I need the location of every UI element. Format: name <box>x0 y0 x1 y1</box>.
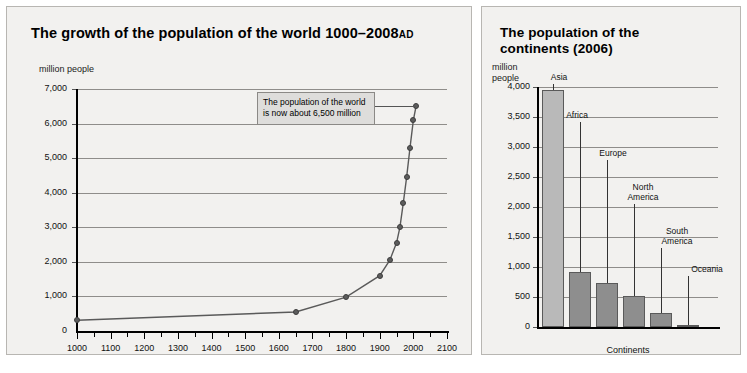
y-tick-label: 4,000 <box>19 187 67 197</box>
y-tick-label: 1,000 <box>488 261 530 271</box>
x-tick-mark <box>312 333 313 339</box>
x-tick-mark-minor <box>195 333 196 337</box>
bar-leader-line <box>634 204 635 296</box>
annotation-callout: The population of the world is now about… <box>257 92 375 125</box>
y-axis-line <box>537 87 539 327</box>
y-tick-label: 2,000 <box>19 256 67 266</box>
bar <box>623 296 645 327</box>
data-point <box>387 257 393 263</box>
data-point <box>410 117 416 123</box>
right-x-axis-title: Continents <box>528 345 728 355</box>
y-tick-label: 3,000 <box>19 221 67 231</box>
bar <box>596 283 618 327</box>
y-tick-label: 2,500 <box>488 171 530 181</box>
data-point <box>293 309 299 315</box>
x-tick-mark-minor <box>127 333 128 337</box>
x-tick-mark <box>178 333 179 339</box>
x-tick-mark <box>77 333 78 339</box>
y-tick-label: 1,000 <box>19 290 67 300</box>
data-point <box>400 200 406 206</box>
y-tick-label: 3,500 <box>488 111 530 121</box>
x-tick-mark-minor <box>94 333 95 337</box>
bar <box>569 272 591 327</box>
data-point <box>343 294 349 300</box>
left-chart-title: The growth of the population of the worl… <box>31 25 451 43</box>
x-tick-mark <box>346 333 347 339</box>
annotation-leader-line <box>375 106 416 107</box>
y-tick-label: 1,500 <box>488 231 530 241</box>
x-tick-mark-minor <box>296 333 297 337</box>
x-tick-mark <box>111 333 112 339</box>
continents-population-chart-panel: The population of the continents (2006) … <box>481 6 741 355</box>
y-tick-label: 500 <box>488 291 530 301</box>
data-point <box>404 174 410 180</box>
y-tick-label: 6,000 <box>19 118 67 128</box>
bar-label: North America <box>620 183 666 203</box>
x-tick-mark-minor <box>228 333 229 337</box>
bar-leader-line <box>607 160 608 283</box>
gridline <box>538 147 718 148</box>
y-tick-label: 2,000 <box>488 201 530 211</box>
y-tick-label: 4,000 <box>488 81 530 91</box>
y-tick-label: 7,000 <box>19 83 67 93</box>
left-y-axis-unit-label: million people <box>39 64 94 75</box>
gridline <box>538 87 718 88</box>
x-tick-mark-minor <box>430 333 431 337</box>
bar-leader-line <box>580 122 581 272</box>
bar-label: Europe <box>590 149 636 159</box>
x-tick-mark <box>279 333 280 339</box>
bar-label: South America <box>654 227 700 247</box>
x-tick-mark <box>413 333 414 339</box>
x-tick-mark-minor <box>397 333 398 337</box>
left-chart-title-text: The growth of the population of the worl… <box>31 25 399 41</box>
x-tick-label: 2100 <box>427 343 467 353</box>
x-tick-mark-minor <box>262 333 263 337</box>
left-chart-title-era: AD <box>399 29 414 40</box>
x-tick-mark <box>380 333 381 339</box>
gridline <box>538 207 718 208</box>
x-tick-mark-minor <box>329 333 330 337</box>
data-point <box>377 273 383 279</box>
bar-label: Asia <box>536 73 582 83</box>
x-tick-mark-minor <box>363 333 364 337</box>
left-plot-area: 01,0002,0003,0004,0005,0006,0007,0001000… <box>77 89 447 331</box>
x-tick-mark <box>212 333 213 339</box>
y-tick-label: 5,000 <box>19 152 67 162</box>
x-tick-mark <box>447 333 448 339</box>
population-line-series <box>77 89 447 331</box>
bar-leader-line <box>661 248 662 313</box>
x-tick-mark <box>144 333 145 339</box>
data-point <box>397 224 403 230</box>
y-tick-label: 0 <box>488 321 530 331</box>
bar <box>542 90 564 327</box>
y-tick-label: 3,000 <box>488 141 530 151</box>
bar-leader-line <box>553 84 554 90</box>
screenshot-stage: The growth of the population of the worl… <box>0 0 747 373</box>
bar <box>650 313 672 327</box>
data-point <box>394 240 400 246</box>
right-chart-title: The population of the continents (2006) <box>500 25 725 58</box>
world-population-chart-panel: The growth of the population of the worl… <box>6 6 472 355</box>
bar-label: Oceania <box>684 265 730 275</box>
x-tick-mark-minor <box>161 333 162 337</box>
data-point <box>74 317 80 323</box>
right-plot-area: 05001,0001,5002,0002,5003,0003,5004,000A… <box>538 87 718 327</box>
bar-label: Africa <box>554 111 600 121</box>
data-point <box>407 145 413 151</box>
bar-leader-line <box>688 276 689 325</box>
x-tick-mark <box>245 333 246 339</box>
bar <box>677 325 699 327</box>
gridline <box>538 177 718 178</box>
y-tick-label: 0 <box>19 325 67 335</box>
x-axis-line <box>537 327 720 329</box>
